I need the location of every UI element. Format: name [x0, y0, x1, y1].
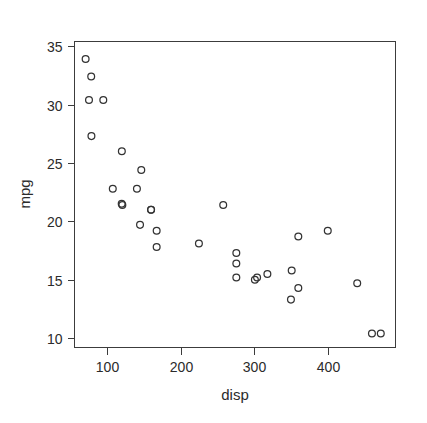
chart-background [0, 0, 427, 423]
y-axis-title: mpg [16, 179, 33, 208]
scatter-plot-figure: 100200300400 101520253035 disp mpg [0, 0, 427, 423]
x-axis-tick-label: 200 [170, 359, 194, 375]
y-axis-tick-label: 15 [47, 273, 63, 289]
x-axis-tick-label: 300 [243, 359, 267, 375]
y-axis-tick-label: 10 [47, 331, 63, 347]
x-axis-title: disp [221, 386, 249, 403]
x-axis-tick-label: 100 [96, 359, 120, 375]
y-axis-tick-label: 35 [47, 39, 63, 55]
y-axis-tick-label: 20 [47, 214, 63, 230]
y-axis-tick-label: 30 [47, 98, 63, 114]
chart-canvas: 100200300400 101520253035 disp mpg [0, 0, 427, 423]
x-axis-tick-label: 400 [317, 359, 341, 375]
y-axis-tick-label: 25 [47, 156, 63, 172]
